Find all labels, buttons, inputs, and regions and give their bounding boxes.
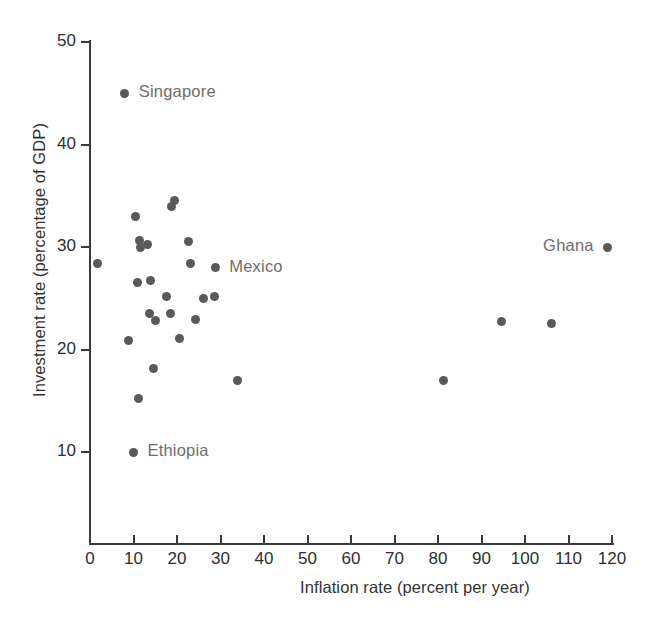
data-point bbox=[151, 316, 160, 325]
x-tick-label: 120 bbox=[589, 549, 635, 569]
data-point bbox=[439, 376, 448, 385]
annotation-mexico: Mexico bbox=[229, 257, 282, 276]
x-tick-mark bbox=[263, 535, 265, 544]
data-point bbox=[497, 317, 506, 326]
y-tick-mark bbox=[81, 451, 90, 453]
x-tick-mark bbox=[176, 535, 178, 544]
data-point bbox=[199, 294, 208, 303]
x-tick-mark bbox=[350, 535, 352, 544]
y-tick-label: 10 bbox=[30, 441, 76, 461]
scatter-plot-figure: Investment rate (percentage of GDP) Infl… bbox=[0, 0, 654, 624]
data-point bbox=[131, 212, 140, 221]
x-tick-label: 70 bbox=[372, 549, 418, 569]
data-point bbox=[191, 315, 200, 324]
annotation-ethiopia: Ethiopia bbox=[148, 441, 209, 460]
x-tick-label: 50 bbox=[285, 549, 331, 569]
y-tick-mark bbox=[81, 144, 90, 146]
data-point bbox=[146, 276, 155, 285]
x-tick-mark bbox=[481, 535, 483, 544]
data-point-ghana bbox=[603, 243, 612, 252]
x-tick-mark bbox=[307, 535, 309, 544]
y-axis-label: Investment rate (percentage of GDP) bbox=[22, 10, 56, 510]
x-tick-label: 30 bbox=[198, 549, 244, 569]
data-point bbox=[547, 319, 556, 328]
x-tick-label: 80 bbox=[415, 549, 461, 569]
x-axis-label: Inflation rate (percent per year) bbox=[300, 578, 654, 597]
data-point bbox=[166, 309, 175, 318]
annotation-ghana: Ghana bbox=[0, 236, 594, 255]
data-point bbox=[186, 259, 195, 268]
annotation-singapore: Singapore bbox=[139, 82, 216, 101]
y-tick-label: 40 bbox=[30, 134, 76, 154]
x-tick-label: 110 bbox=[546, 549, 592, 569]
x-tick-label: 90 bbox=[459, 549, 505, 569]
data-point bbox=[93, 259, 102, 268]
data-point bbox=[134, 394, 143, 403]
y-axis-line bbox=[89, 40, 91, 545]
x-tick-label: 10 bbox=[111, 549, 157, 569]
x-tick-label: 40 bbox=[241, 549, 287, 569]
x-tick-mark bbox=[394, 535, 396, 544]
data-point bbox=[210, 292, 219, 301]
x-tick-label: 60 bbox=[328, 549, 374, 569]
data-point bbox=[149, 364, 158, 373]
y-tick-label: 50 bbox=[30, 31, 76, 51]
x-tick-label: 20 bbox=[154, 549, 200, 569]
data-point bbox=[233, 376, 242, 385]
data-point bbox=[133, 278, 142, 287]
x-tick-mark bbox=[568, 535, 570, 544]
y-tick-mark bbox=[81, 41, 90, 43]
data-point bbox=[175, 334, 184, 343]
data-point-singapore bbox=[120, 89, 129, 98]
x-tick-mark bbox=[437, 535, 439, 544]
data-point bbox=[124, 336, 133, 345]
x-tick-mark bbox=[611, 535, 613, 544]
x-tick-label: 100 bbox=[502, 549, 548, 569]
data-point-ethiopia bbox=[129, 448, 138, 457]
data-point-mexico bbox=[211, 263, 220, 272]
x-tick-mark bbox=[220, 535, 222, 544]
data-point bbox=[170, 196, 179, 205]
y-tick-mark bbox=[81, 349, 90, 351]
x-tick-label: 0 bbox=[67, 549, 113, 569]
x-tick-mark bbox=[524, 535, 526, 544]
data-point bbox=[162, 292, 171, 301]
x-tick-mark bbox=[133, 535, 135, 544]
y-tick-label: 20 bbox=[30, 339, 76, 359]
